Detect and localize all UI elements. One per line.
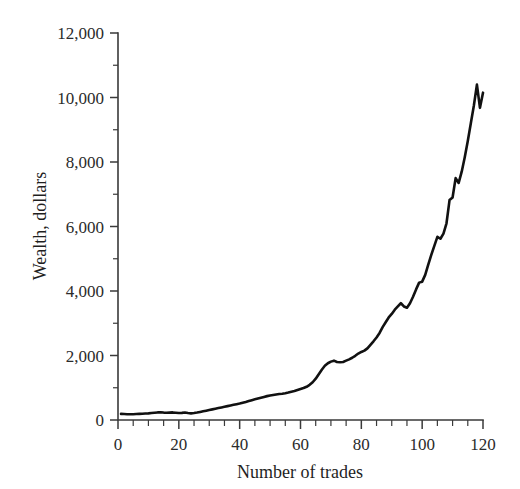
wealth-vs-trades-line-chart: 02,0004,0006,0008,00010,00012,000 020406… [0,0,520,489]
y-tick-label: 0 [96,411,105,430]
y-axis-title: Wealth, dollars [30,172,50,281]
x-tick-label: 40 [231,435,248,454]
figure-canvas: 02,0004,0006,0008,00010,00012,000 020406… [0,0,520,489]
y-axis-tick-labels: 02,0004,0006,0008,00010,00012,000 [57,24,104,430]
x-axis-title: Number of trades [237,462,363,482]
x-tick-label: 80 [353,435,370,454]
x-tick-label: 20 [170,435,187,454]
y-axis-major-ticks [110,33,118,420]
x-axis-tick-labels: 020406080100120 [114,435,496,454]
y-tick-label: 2,000 [66,347,104,366]
axes-group [118,33,483,420]
x-tick-label: 120 [470,435,496,454]
axis-lines [118,33,483,420]
y-tick-label: 12,000 [57,24,104,43]
wealth-series-line [121,85,483,415]
y-tick-label: 6,000 [66,218,104,237]
x-tick-label: 60 [292,435,309,454]
x-axis-major-ticks [118,420,483,429]
y-tick-label: 8,000 [66,153,104,172]
x-tick-label: 100 [409,435,435,454]
x-tick-label: 0 [114,435,123,454]
y-tick-label: 10,000 [57,89,104,108]
y-tick-label: 4,000 [66,282,104,301]
